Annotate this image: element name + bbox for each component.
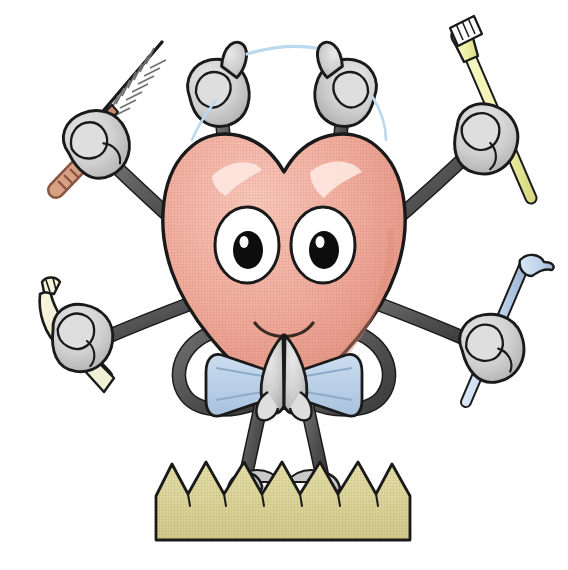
illustration-canvas: Cartoon heart character holding dental h… <box>0 0 568 570</box>
heart-mascot-illustration <box>0 0 568 570</box>
eye-right <box>291 207 355 283</box>
eye-left <box>215 207 279 283</box>
